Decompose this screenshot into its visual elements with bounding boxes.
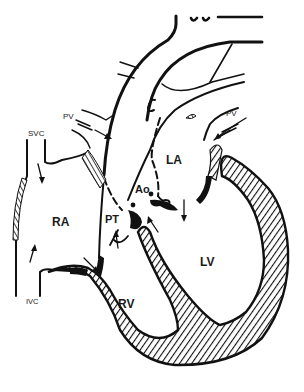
label-pt: PT	[105, 213, 119, 225]
heart-diagram: SVC IVC PV PV RA RV LA LV PT Ao	[0, 0, 304, 392]
label-ra: RA	[52, 215, 70, 229]
label-lv: LV	[200, 255, 214, 269]
left-atrium	[186, 108, 246, 140]
ventricular-myocardium	[48, 156, 288, 365]
label-pv-left: PV	[63, 112, 74, 121]
label-pv-right: PV	[226, 109, 237, 118]
aortic-arch	[104, 16, 262, 175]
label-ivc: IVC	[26, 297, 39, 306]
label-ao: Ao	[135, 183, 150, 195]
pulmonary-trunk	[95, 82, 244, 282]
label-rv: RV	[118, 297, 134, 311]
atrial-septum	[196, 145, 222, 204]
label-svc: SVC	[28, 129, 45, 138]
label-la: LA	[166, 153, 182, 167]
